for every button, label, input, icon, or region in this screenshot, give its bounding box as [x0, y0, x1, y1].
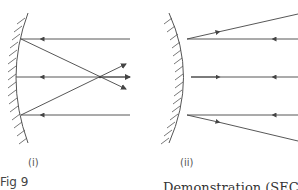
panel-ii-convex-mirror [161, 13, 298, 144]
mirror-hatching [8, 18, 27, 144]
mirror-hatching [161, 18, 183, 144]
convex-mirror-surface [169, 13, 184, 143]
ray-diagram [0, 0, 298, 190]
panel-label-i: (i) [28, 157, 39, 168]
panel-label-ii: (ii) [180, 157, 193, 168]
figure-label: Fig 9 [0, 175, 28, 189]
figure-caption-fragment: Demonstration (SEC 100 [163, 180, 298, 190]
focal-point [99, 76, 101, 78]
panel-i-concave-mirror [8, 13, 130, 144]
reflected-rays [187, 14, 298, 141]
concave-mirror-surface [16, 13, 28, 143]
